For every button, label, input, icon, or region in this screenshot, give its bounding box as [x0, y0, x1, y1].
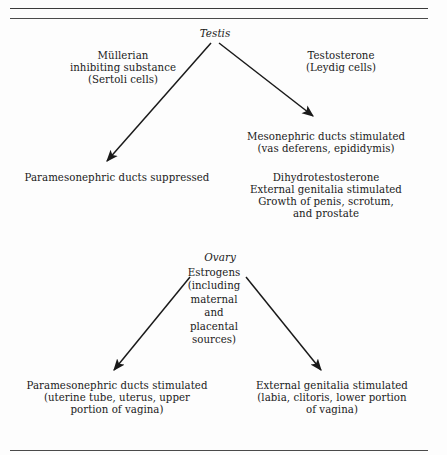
paramesonephric-ducts-suppressed-label: Paramesonephric ducts suppressed [12, 172, 222, 184]
arrow-estrogens-to-paramesonephric [114, 277, 190, 370]
ovary-label: Ovary [165, 251, 275, 263]
estrogens-label: Estrogens (including maternal and placen… [186, 266, 242, 347]
external-genitalia-stimulated-label: External genitalia stimulated (labia, cl… [242, 380, 422, 416]
top-rule-upper [10, 8, 428, 9]
arrow-estrogens-to-external-genitalia [246, 277, 321, 370]
sexual-differentiation-diagram: Testis Müllerian inhibiting substance (S… [0, 0, 447, 455]
dihydrotestosterone-effects-label: Dihydrotestosterone External genitalia s… [230, 172, 422, 220]
testis-label: Testis [160, 27, 270, 39]
mesonephric-ducts-stimulated-label: Mesonephric ducts stimulated (vas defere… [236, 131, 416, 155]
mullerian-inhibiting-substance-label: Müllerian inhibiting substance (Sertoli … [48, 50, 198, 86]
top-rule-lower [10, 18, 428, 19]
testosterone-label: Testosterone (Leydig cells) [276, 50, 406, 74]
bottom-rule [10, 450, 428, 451]
paramesonephric-ducts-stimulated-label: Paramesonephric ducts stimulated (uterin… [12, 380, 222, 416]
